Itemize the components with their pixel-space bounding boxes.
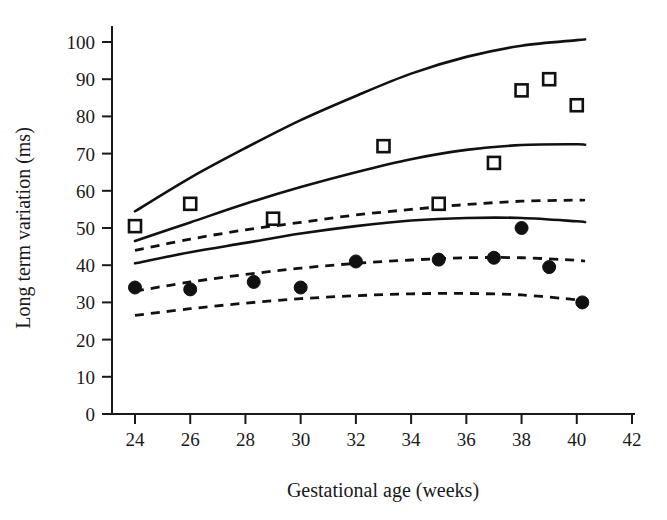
x-tick-label: 26 bbox=[181, 429, 200, 450]
x-axis-ticks: 24262830323436384042 bbox=[126, 414, 642, 450]
x-tick-label: 28 bbox=[236, 429, 255, 450]
data-point-square bbox=[516, 84, 528, 96]
data-point-circle bbox=[349, 255, 362, 268]
y-axis-title: Long term variation (ms) bbox=[12, 127, 35, 329]
data-point-circle bbox=[432, 253, 445, 266]
data-point-square bbox=[488, 157, 500, 169]
axes-group: 0102030405060708090100 24262830323436384… bbox=[67, 27, 642, 450]
data-point-circle bbox=[515, 222, 528, 235]
data-point-square bbox=[543, 73, 555, 85]
data-point-circle bbox=[129, 281, 142, 294]
curve-solid-upper-reference bbox=[135, 39, 585, 211]
y-tick-label: 50 bbox=[76, 218, 95, 239]
data-point-circle bbox=[576, 296, 589, 309]
x-tick-label: 38 bbox=[512, 429, 531, 450]
y-tick-label: 80 bbox=[76, 106, 95, 127]
chart-canvas: 0102030405060708090100 24262830323436384… bbox=[0, 0, 667, 520]
curve-dashed-lower-reference bbox=[135, 293, 585, 315]
data-point-circle bbox=[487, 251, 500, 264]
data-point-square bbox=[129, 220, 141, 232]
y-tick-label: 60 bbox=[76, 181, 95, 202]
x-tick-label: 30 bbox=[291, 429, 310, 450]
y-tick-label: 0 bbox=[86, 404, 96, 425]
y-tick-label: 10 bbox=[76, 367, 95, 388]
x-tick-label: 34 bbox=[402, 429, 422, 450]
chart-figure: 0102030405060708090100 24262830323436384… bbox=[0, 0, 667, 520]
data-point-circle bbox=[543, 261, 556, 274]
x-tick-label: 36 bbox=[457, 429, 476, 450]
x-tick-label: 32 bbox=[346, 429, 365, 450]
y-tick-label: 90 bbox=[76, 69, 95, 90]
data-point-square bbox=[378, 140, 390, 152]
plot-curves bbox=[135, 39, 585, 315]
data-point-square bbox=[184, 198, 196, 210]
data-point-circle bbox=[184, 283, 197, 296]
y-tick-label: 100 bbox=[67, 32, 96, 53]
y-axis-ticks: 0102030405060708090100 bbox=[67, 32, 113, 425]
data-point-square bbox=[267, 213, 279, 225]
data-point-circle bbox=[294, 281, 307, 294]
y-tick-label: 20 bbox=[76, 330, 95, 351]
x-tick-label: 42 bbox=[623, 429, 642, 450]
data-point-circle bbox=[247, 275, 260, 288]
plot-markers bbox=[129, 73, 589, 309]
x-tick-label: 40 bbox=[567, 429, 586, 450]
x-axis-title: Gestational age (weeks) bbox=[287, 479, 479, 502]
y-tick-label: 40 bbox=[76, 255, 95, 276]
y-tick-label: 70 bbox=[76, 144, 95, 165]
x-tick-label: 24 bbox=[126, 429, 146, 450]
data-point-square bbox=[433, 198, 445, 210]
data-point-square bbox=[571, 99, 583, 111]
y-tick-label: 30 bbox=[76, 292, 95, 313]
